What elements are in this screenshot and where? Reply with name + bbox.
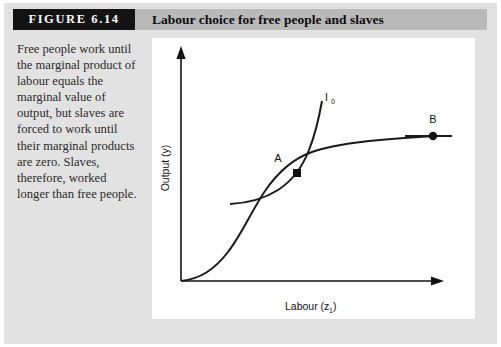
figure-header-bar: FIGURE 6.14 Labour choice for free peopl…: [13, 9, 487, 30]
point-b-label: B: [429, 113, 436, 125]
y-axis: [176, 46, 185, 281]
x-axis-label-main: Labour (z: [285, 300, 329, 312]
figure-title: Labour choice for free people and slaves: [135, 9, 487, 30]
y-axis-label: Output (y): [159, 145, 171, 192]
point-a-label: A: [274, 152, 282, 164]
indifference-curve-label: I 0: [325, 91, 335, 105]
figure-number-tag: FIGURE 6.14: [13, 9, 135, 30]
point-b-marker: [429, 132, 437, 140]
chart-svg: A B I 0 Output (y) Labour (z 1 ): [152, 38, 475, 319]
figure-root: FIGURE 6.14 Labour choice for free peopl…: [0, 0, 501, 347]
indifference-curve-label-subscript: 0: [331, 98, 335, 105]
figure-caption: Free people work until the marginal prod…: [17, 41, 139, 202]
x-axis-label: Labour (z 1 ): [285, 300, 337, 314]
indifference-curve-label-main: I: [325, 91, 328, 103]
production-function-curve: [181, 136, 435, 281]
point-a-marker: [293, 169, 301, 177]
chart-panel: A B I 0 Output (y) Labour (z 1 ): [152, 38, 475, 319]
x-axis-label-suffix: ): [333, 300, 337, 312]
x-axis: [181, 276, 444, 285]
